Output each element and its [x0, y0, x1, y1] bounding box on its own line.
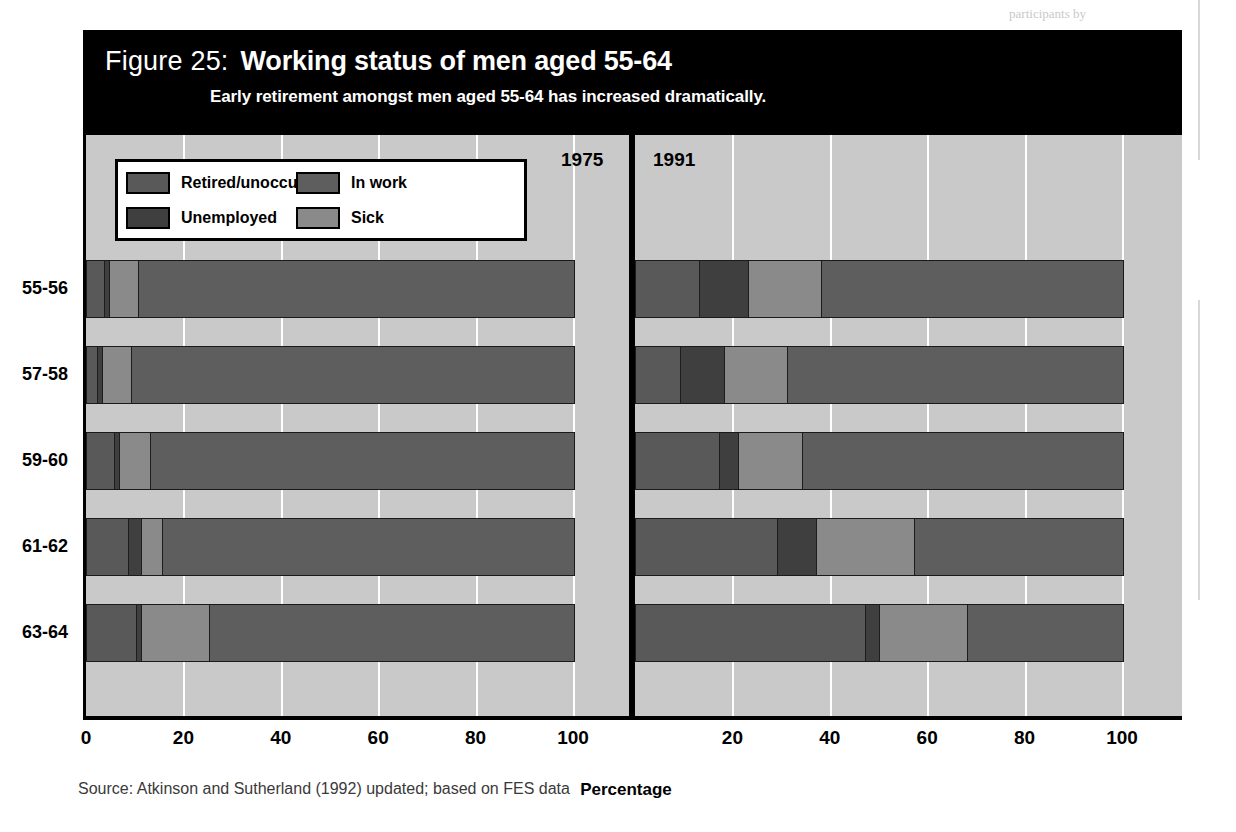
legend-item-retired-unoccupied: Retired/unoccupied — [126, 172, 296, 194]
legend-swatch-unemployed — [126, 207, 170, 229]
segment-retired-unoccupied — [636, 605, 865, 661]
segment-unemployed — [128, 519, 140, 575]
panel-divider — [629, 135, 632, 720]
segment-sick — [738, 433, 801, 489]
tick-1975-60: 60 — [368, 727, 389, 749]
figure-number: Figure 25: — [105, 46, 229, 77]
bar-1991-59-60 — [635, 432, 1124, 490]
segment-sick — [724, 347, 787, 403]
bar-1991-55-56 — [635, 260, 1124, 318]
page-top-note-right: participants by — [1009, 6, 1086, 22]
source-note: Source: Atkinson and Sutherland (1992) u… — [78, 780, 570, 798]
segment-retired-unoccupied — [87, 261, 104, 317]
tick-1975-80: 80 — [465, 727, 486, 749]
legend-label-unemployed: Unemployed — [181, 209, 277, 227]
figure-title: Working status of men aged 55-64 — [241, 46, 672, 77]
legend-swatch-sick — [296, 207, 340, 229]
legend: Retired/unoccupied In work Unemployed Si… — [115, 159, 527, 241]
figure-subtitle: Early retirement amongst men aged 55-64 … — [210, 87, 766, 107]
segment-sick — [109, 261, 138, 317]
tick-1991-20: 20 — [722, 727, 743, 749]
tick-1975-0: 0 — [81, 727, 92, 749]
segment-sick — [119, 433, 151, 489]
segment-in-work — [162, 519, 574, 575]
tick-1991-60: 60 — [917, 727, 938, 749]
bar-1975-63-64 — [86, 604, 575, 662]
legend-item-sick: Sick — [296, 207, 516, 229]
bar-1975-55-56 — [86, 260, 575, 318]
tick-1991-80: 80 — [1014, 727, 1035, 749]
year-label-1991: 1991 — [653, 149, 695, 171]
page-edge-rule-right-lower — [1198, 300, 1200, 600]
figure-page: participants by Figure 25: Working statu… — [0, 0, 1236, 832]
segment-retired-unoccupied — [87, 605, 136, 661]
segment-sick — [141, 519, 163, 575]
category-label-57-58: 57-58 — [0, 364, 68, 385]
segment-unemployed — [777, 519, 816, 575]
segment-in-work — [802, 433, 1123, 489]
year-label-1975: 1975 — [561, 149, 603, 171]
legend-label-in-work: In work — [351, 174, 407, 192]
category-label-61-62: 61-62 — [0, 536, 68, 557]
tick-1991-100: 100 — [1106, 727, 1138, 749]
figure-container: Figure 25: Working status of men aged 55… — [70, 30, 1182, 742]
segment-retired-unoccupied — [87, 519, 128, 575]
figure-title-row: Figure 25: Working status of men aged 55… — [105, 46, 672, 77]
tick-1975-100: 100 — [557, 727, 589, 749]
segment-in-work — [131, 347, 574, 403]
category-label-63-64: 63-64 — [0, 622, 68, 643]
legend-swatch-in-work — [296, 172, 340, 194]
legend-label-sick: Sick — [351, 209, 384, 227]
segment-in-work — [914, 519, 1123, 575]
segment-retired-unoccupied — [636, 519, 777, 575]
bar-1975-61-62 — [86, 518, 575, 576]
segment-retired-unoccupied — [636, 261, 699, 317]
segment-unemployed — [719, 433, 738, 489]
segment-in-work — [138, 261, 574, 317]
segment-in-work — [150, 433, 574, 489]
segment-retired-unoccupied — [87, 433, 114, 489]
segment-in-work — [967, 605, 1123, 661]
tick-1975-20: 20 — [173, 727, 194, 749]
segment-sick — [141, 605, 209, 661]
figure-title-band: Figure 25: Working status of men aged 55… — [83, 30, 1182, 135]
segment-unemployed — [699, 261, 748, 317]
segment-retired-unoccupied — [636, 347, 680, 403]
segment-in-work — [209, 605, 574, 661]
legend-item-unemployed: Unemployed — [126, 207, 296, 229]
segment-in-work — [787, 347, 1123, 403]
bar-1991-63-64 — [635, 604, 1124, 662]
segment-sick — [816, 519, 913, 575]
bar-1975-57-58 — [86, 346, 575, 404]
segment-sick — [879, 605, 967, 661]
plot-area: 1975 1991 Retired/unoccupied In work Une… — [83, 135, 1182, 720]
segment-sick — [102, 347, 131, 403]
tick-1991-40: 40 — [819, 727, 840, 749]
segment-unemployed — [865, 605, 880, 661]
category-label-55-56: 55-56 — [0, 278, 68, 299]
segment-unemployed — [680, 347, 724, 403]
page-edge-rule-right — [1198, 0, 1200, 160]
category-label-59-60: 59-60 — [0, 450, 68, 471]
segment-in-work — [821, 261, 1123, 317]
tick-1975-40: 40 — [270, 727, 291, 749]
segment-sick — [748, 261, 821, 317]
segment-retired-unoccupied — [87, 347, 97, 403]
legend-swatch-retired-unoccupied — [126, 172, 170, 194]
bar-1991-57-58 — [635, 346, 1124, 404]
bar-1991-61-62 — [635, 518, 1124, 576]
segment-retired-unoccupied — [636, 433, 719, 489]
legend-item-in-work: In work — [296, 172, 516, 194]
bar-1975-59-60 — [86, 432, 575, 490]
